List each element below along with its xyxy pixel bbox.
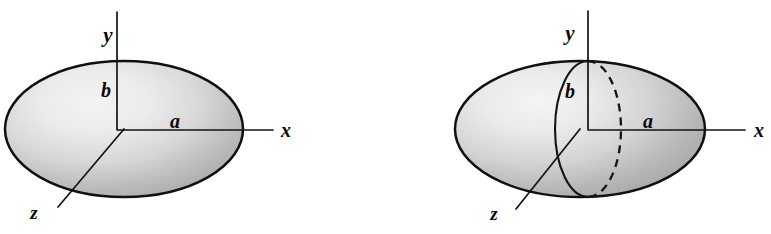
left-y-label: y [100, 23, 113, 47]
right-x-label: x [753, 119, 764, 141]
right-a-label: a [643, 110, 653, 132]
left-a-label: a [170, 110, 180, 132]
right-y-label: y [562, 21, 575, 45]
figure-canvas: y b a z x y b [0, 0, 771, 234]
right-z-label: z [489, 203, 498, 224]
left-panel: y b a z x [5, 12, 291, 223]
left-z-label: z [29, 202, 38, 223]
right-b-label: b [565, 80, 575, 102]
right-panel: y b a z x [455, 11, 764, 224]
left-x-label: x [280, 119, 291, 141]
left-b-label: b [101, 79, 111, 101]
figure-page: y b a z x y b [0, 0, 771, 234]
